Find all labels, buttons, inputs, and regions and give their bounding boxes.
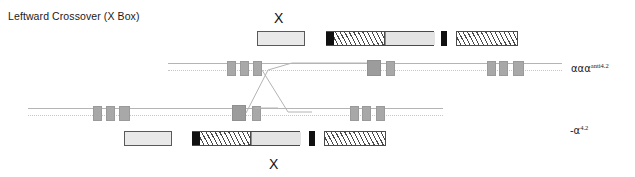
fragment-black-tick-2 — [309, 131, 315, 146]
figure-canvas: Leftward Crossover (X Box) X — [0, 0, 635, 177]
segment-hatch — [200, 132, 251, 145]
fragment-composite-2 — [192, 131, 300, 146]
crossover-region — [0, 0, 635, 177]
genotype-label-top-alpha: ααα — [571, 63, 591, 74]
crossover-strand-ascending-b — [268, 63, 367, 70]
segment-black — [309, 131, 315, 146]
fragment-plain-2 — [124, 131, 172, 146]
segment-plain — [124, 131, 172, 146]
crossover-marker-bottom-label: X — [269, 157, 278, 171]
genotype-label-bottom-alpha: -α — [570, 125, 580, 136]
genotype-label-top: αααanti4.2 — [571, 62, 609, 74]
genotype-label-bottom-superscript: 4.2 — [580, 124, 588, 131]
fragment-hatch-2 — [324, 131, 386, 146]
segment-hatch — [324, 131, 386, 146]
segment-black — [192, 132, 200, 145]
crossover-strand-descending — [262, 70, 312, 112]
genotype-label-bottom: -α4.2 — [570, 124, 588, 136]
segment-grey — [251, 132, 301, 145]
genotype-label-top-superscript: anti4.2 — [591, 62, 609, 69]
crossover-strand-ascending-a — [246, 70, 268, 113]
